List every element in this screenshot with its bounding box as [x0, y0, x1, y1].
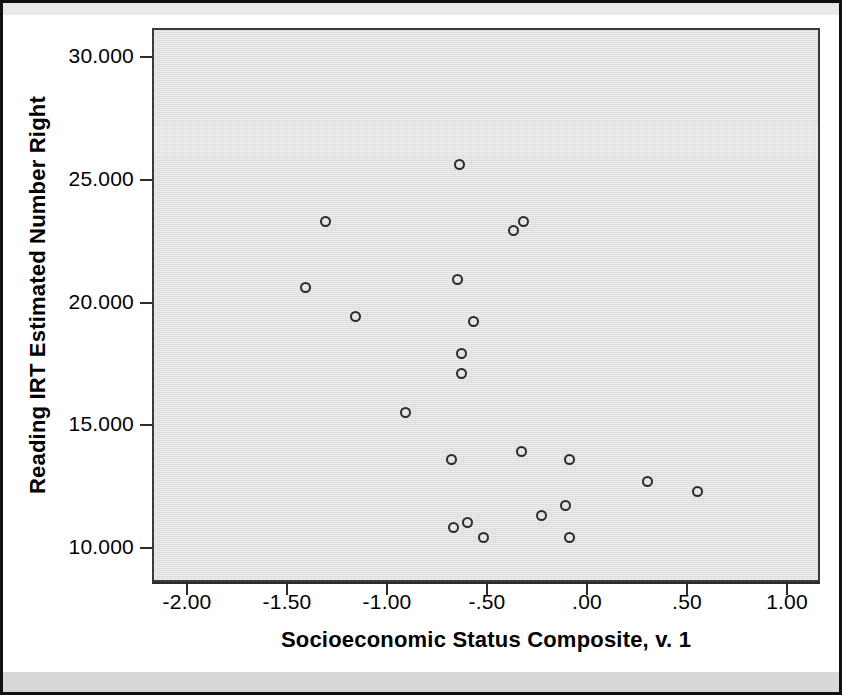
- x-tick-label: 1.00: [766, 590, 808, 614]
- data-point: [518, 216, 529, 227]
- y-tick-mark: [140, 302, 152, 304]
- y-tick-label: 30.000: [0, 44, 134, 68]
- data-point: [462, 517, 473, 528]
- x-tick-label: -1.00: [363, 590, 412, 614]
- x-tick-label: .50: [672, 590, 702, 614]
- data-point: [400, 407, 411, 418]
- x-axis-title: Socioeconomic Status Composite, v. 1: [152, 627, 820, 653]
- scatter-plot-figure: 30.00025.00020.00015.00010.000 -2.00-1.5…: [0, 0, 842, 695]
- data-point: [564, 454, 575, 465]
- x-tick-label: -1.50: [263, 590, 312, 614]
- page-bottom-shade: [3, 672, 839, 692]
- data-point: [560, 500, 571, 511]
- y-tick-label: 20.000: [0, 290, 134, 314]
- data-point: [536, 510, 547, 521]
- y-tick-mark: [140, 547, 152, 549]
- x-tick-label: -2.00: [163, 590, 212, 614]
- y-tick-label: 25.000: [0, 167, 134, 191]
- page-top-shade: [3, 3, 839, 15]
- plot-background-band: [154, 126, 818, 156]
- y-tick-mark: [140, 179, 152, 181]
- plot-background-texture: [154, 30, 818, 580]
- y-axis-title: Reading IRT Estimated Number Right: [25, 5, 51, 585]
- data-point: [452, 274, 463, 285]
- data-point: [456, 368, 467, 379]
- data-point: [446, 454, 457, 465]
- y-tick-label: 15.000: [0, 412, 134, 436]
- data-point: [478, 532, 489, 543]
- data-point: [692, 486, 703, 497]
- data-point: [456, 348, 467, 359]
- data-point: [448, 522, 459, 533]
- x-tick-label: -.50: [469, 590, 506, 614]
- data-point: [320, 216, 331, 227]
- y-tick-mark: [140, 56, 152, 58]
- data-point: [300, 282, 311, 293]
- data-point: [468, 316, 479, 327]
- data-point: [642, 476, 653, 487]
- y-tick-mark: [140, 424, 152, 426]
- data-point: [564, 532, 575, 543]
- data-point: [454, 159, 465, 170]
- x-tick-label: .00: [572, 590, 602, 614]
- plot-area: [152, 28, 820, 582]
- data-point: [516, 446, 527, 457]
- y-tick-label: 10.000: [0, 535, 134, 559]
- data-point: [350, 311, 361, 322]
- data-point: [508, 225, 519, 236]
